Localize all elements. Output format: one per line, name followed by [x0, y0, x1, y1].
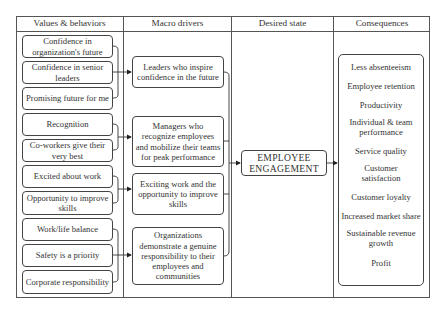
consequence-item: Service quality [339, 146, 423, 156]
consequence-item: Profit [339, 258, 423, 268]
column-divider [123, 16, 124, 298]
consequences-box: Less absenteeism Employee retention Prod… [338, 54, 424, 286]
column-header-values-behaviors: Values & behaviors [16, 16, 123, 32]
value-box: Co-workers give their very best [22, 139, 113, 162]
value-box: Confidence in organization's future [22, 35, 113, 58]
column-header-consequences: Consequences [334, 16, 430, 32]
value-box: Recognition [22, 113, 113, 136]
consequence-item: Customer satisfaction [339, 163, 423, 183]
consequence-item: Increased market share [339, 211, 423, 221]
driver-box-exciting-work: Exciting work and the opportunity to imp… [132, 173, 224, 215]
consequence-item: Customer loyalty [339, 192, 423, 202]
value-box: Excited about work [22, 165, 113, 188]
value-box: Safety is a priority [22, 244, 113, 267]
column-header-macro-drivers: Macro drivers [124, 16, 231, 32]
consequence-item: Individual & team performance [339, 117, 423, 137]
driver-box-managers: Managers who recognize employees and mob… [132, 116, 224, 167]
consequence-item: Employee retention [339, 81, 423, 91]
value-box: Confidence in senior leaders [22, 61, 113, 84]
driver-box-organizations: Organizations demonstrate a genuine resp… [132, 227, 224, 285]
column-header-desired-state: Desired state [232, 16, 333, 32]
column-divider [333, 16, 334, 298]
value-box: Corporate responsibility [22, 270, 113, 294]
desired-state-box: EMPLOYEE ENGAGEMENT [241, 150, 327, 176]
consequence-item: Less absenteeism [339, 62, 423, 72]
value-box: Opportunity to improve skills [22, 191, 113, 215]
column-divider [231, 16, 232, 298]
driver-box-leaders: Leaders who inspire confidence in the fu… [132, 56, 224, 88]
value-box: Promising future for me [22, 87, 113, 110]
value-box: Work/life balance [22, 218, 113, 241]
consequence-item: Sustainable revenue growth [339, 228, 423, 248]
consequence-item: Productivity [339, 100, 423, 110]
